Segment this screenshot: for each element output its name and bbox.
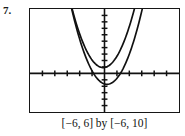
y-axis-ticks — [102, 15, 108, 105]
viewing-window-caption: [−6, 6] by [−6, 10] — [29, 116, 180, 131]
figure-container: 7. — [0, 0, 185, 136]
graph-svg — [30, 9, 179, 112]
calculator-screen — [29, 8, 180, 113]
curve-upper-parabola — [71, 9, 135, 68]
problem-number-label: 7. — [3, 4, 11, 17]
